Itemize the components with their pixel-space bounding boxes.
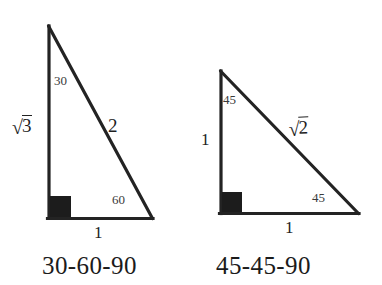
angle-label-45-apex: 45 — [223, 93, 236, 106]
side-label-sqrt2: √2 — [288, 117, 309, 139]
side-label-leg-1-right: 1 — [201, 131, 210, 148]
triangle-45-45-90: 45 1 √2 45 1 45-45-90 — [0, 0, 382, 285]
caption-45-45-90: 45-45-90 — [216, 252, 311, 280]
radicand-2: 2 — [298, 116, 309, 136]
side-label-base-1-right: 1 — [285, 219, 294, 236]
right-angle-marker-45-45-90 — [222, 192, 242, 212]
radical-sqrt2: √2 — [288, 117, 309, 139]
angle-label-45-base: 45 — [312, 191, 325, 204]
special-right-triangles-figure: 30 √3 2 60 1 30-60-90 45 1 √2 — [0, 0, 382, 285]
triangle-45-45-90-outline — [0, 0, 382, 285]
